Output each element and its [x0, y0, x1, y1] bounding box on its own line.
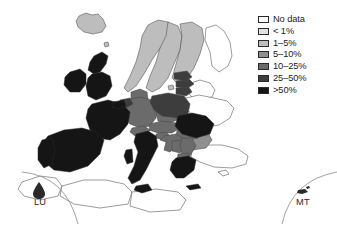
legend-item-no-data: No data: [258, 14, 332, 25]
legend-swatch-lt1: [258, 28, 269, 35]
legend-item-gt50: >50%: [258, 85, 332, 96]
inset-label-lu: LU: [34, 197, 46, 207]
country-faroe: [104, 42, 109, 47]
legend-swatch-gt50: [258, 87, 269, 94]
legend-label-1-5: 1–5%: [273, 38, 296, 49]
legend-swatch-25-50: [258, 75, 269, 82]
legend-swatch-1-5: [258, 40, 269, 47]
mt-inset-shape: [297, 189, 308, 194]
legend: No data < 1% 1–5% 5–10% 10–25% 25–50% >5…: [258, 14, 332, 96]
country-crete: [186, 184, 201, 190]
legend-item-lt1: < 1%: [258, 26, 332, 37]
country-cyprus: [218, 170, 229, 176]
legend-swatch-10-25: [258, 63, 269, 70]
country-russia-north: [205, 25, 232, 72]
inset-label-mt: MT: [296, 197, 310, 207]
country-austria: [149, 121, 180, 133]
legend-label-lt1: < 1%: [273, 26, 294, 37]
country-england-wales: [86, 72, 112, 100]
country-ireland: [64, 69, 86, 92]
mt-inset-shape-small: [306, 186, 310, 189]
legend-swatch-no-data: [258, 16, 269, 23]
legend-label-no-data: No data: [273, 14, 305, 25]
country-aland: [168, 85, 174, 90]
legend-label-5-10: 5–10%: [273, 49, 301, 60]
country-libya-west: [130, 189, 186, 212]
legend-item-5-10: 5–10%: [258, 49, 332, 60]
legend-label-10-25: 10–25%: [273, 61, 307, 72]
choropleth-map-figure: No data < 1% 1–5% 5–10% 10–25% 25–50% >5…: [0, 0, 337, 226]
country-greece: [170, 156, 196, 178]
legend-item-1-5: 1–5%: [258, 38, 332, 49]
legend-swatch-5-10: [258, 51, 269, 58]
legend-item-25-50: 25–50%: [258, 73, 332, 84]
country-scotland: [88, 52, 108, 74]
country-sardinia-corsica: [124, 149, 133, 164]
legend-label-25-50: 25–50%: [273, 73, 307, 84]
legend-label-gt50: >50%: [273, 85, 297, 96]
legend-item-10-25: 10–25%: [258, 61, 332, 72]
country-iceland: [76, 13, 106, 34]
